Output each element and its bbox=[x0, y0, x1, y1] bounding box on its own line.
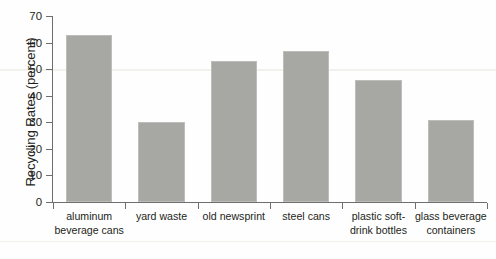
x-tick-mark bbox=[415, 203, 416, 209]
category-label-5: glass beveragecontainers bbox=[406, 210, 496, 237]
y-tick-label: 70 bbox=[0, 8, 42, 24]
y-tick-mark bbox=[46, 16, 53, 17]
bar-2 bbox=[211, 61, 258, 202]
bar-1 bbox=[138, 122, 185, 202]
x-tick-mark bbox=[487, 203, 488, 209]
recycling-rates-bar-chart: Recycling Rates (percent) 01020304050607… bbox=[0, 0, 496, 259]
y-tick-label: 0 bbox=[0, 194, 42, 210]
y-tick-mark bbox=[46, 149, 53, 150]
category-label-line: containers bbox=[406, 224, 496, 238]
y-tick-mark bbox=[46, 69, 53, 70]
y-tick-label: 20 bbox=[0, 141, 42, 157]
y-tick-mark bbox=[46, 43, 53, 44]
y-tick-label: 50 bbox=[0, 61, 42, 77]
x-tick-mark bbox=[198, 203, 199, 209]
y-tick-mark bbox=[46, 96, 53, 97]
x-tick-mark bbox=[342, 203, 343, 209]
x-tick-mark bbox=[270, 203, 271, 209]
y-tick-mark bbox=[46, 122, 53, 123]
category-label-line: glass beverage bbox=[406, 210, 496, 224]
y-tick-label: 40 bbox=[0, 88, 42, 104]
category-label-line: beverage cans bbox=[44, 224, 134, 238]
bar-3 bbox=[283, 51, 330, 202]
y-tick-label: 10 bbox=[0, 167, 42, 183]
x-tick-mark bbox=[53, 203, 54, 209]
y-tick-label: 30 bbox=[0, 114, 42, 130]
y-tick-mark bbox=[46, 175, 53, 176]
bar-4 bbox=[355, 80, 402, 202]
bar-5 bbox=[428, 120, 475, 202]
x-axis-line bbox=[46, 202, 487, 203]
x-tick-mark bbox=[125, 203, 126, 209]
y-tick-mark bbox=[46, 202, 53, 203]
bar-0 bbox=[66, 35, 113, 202]
y-tick-label: 60 bbox=[0, 35, 42, 51]
